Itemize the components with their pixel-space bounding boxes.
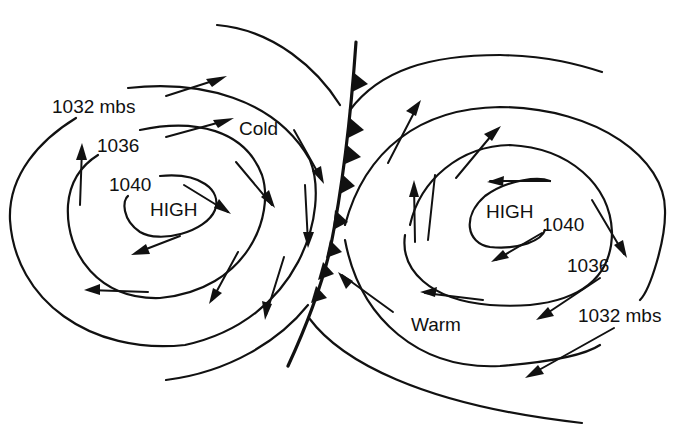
left-high-label: HIGH [150, 199, 198, 220]
left-high-system: 1032 mbs 1036 1040 HIGH Cold [10, 25, 340, 380]
right-isobar-outer [350, 55, 602, 110]
left-isobar-outer [217, 25, 340, 105]
left-label-1036: 1036 [97, 135, 139, 156]
right-high-system: HIGH 1040 1036 1032 mbs Warm [309, 55, 665, 423]
cold-air-label: Cold [239, 118, 278, 139]
warm-air-label: Warm [411, 314, 461, 335]
right-high-label: HIGH [486, 201, 534, 222]
pressure-systems-diagram: 1032 mbs 1036 1040 HIGH Cold [0, 0, 678, 433]
right-label-1032: 1032 mbs [578, 305, 661, 326]
cold-front [288, 42, 368, 366]
left-label-1040: 1040 [109, 174, 151, 195]
right-label-1040: 1040 [542, 214, 584, 235]
left-isobar-outer-lower [166, 305, 308, 380]
left-label-1032: 1032 mbs [52, 96, 135, 117]
right-label-1036: 1036 [567, 255, 609, 276]
right-wind-arrows [338, 100, 627, 378]
